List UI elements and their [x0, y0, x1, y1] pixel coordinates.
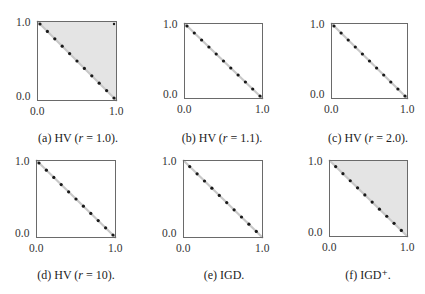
solution-point [340, 31, 343, 34]
solution-point [385, 215, 388, 218]
solution-point [97, 219, 100, 222]
y-tick-bottom: 0.0 [310, 89, 324, 101]
solution-point [67, 190, 70, 193]
x-tick-left: 0.0 [176, 243, 190, 255]
x-tick-left: 0.0 [29, 243, 43, 255]
y-tick-top: 1.0 [163, 19, 177, 31]
solution-point [53, 37, 56, 40]
y-tick-top: 1.0 [310, 19, 324, 31]
caption-e: (e) IGD. [204, 269, 245, 281]
solution-point [45, 169, 48, 172]
solution-point [193, 31, 196, 34]
x-tick-right: 1.0 [400, 242, 414, 254]
solution-point [378, 208, 381, 211]
solution-point [200, 38, 203, 41]
solution-point [341, 172, 344, 175]
x-tick-left: 0.0 [322, 242, 336, 254]
solution-point [332, 24, 335, 27]
caption-f: (f) IGD⁺. [345, 269, 391, 281]
solution-point [112, 96, 115, 99]
x-tick-left: 0.0 [177, 104, 191, 116]
plot-area-b [184, 23, 263, 99]
plot-area-d [36, 160, 116, 238]
y-tick-bottom: 0.0 [162, 228, 176, 240]
solution-point [222, 59, 225, 62]
y-tick-top: 1.0 [308, 156, 322, 168]
x-tick-right: 1.0 [255, 243, 269, 255]
solution-point [244, 80, 247, 83]
solution-point [247, 223, 250, 226]
solution-point [237, 73, 240, 76]
solution-point [61, 45, 64, 48]
solution-point [255, 230, 258, 233]
x-tick-left: 0.0 [30, 106, 44, 118]
solution-point [334, 165, 337, 168]
solution-point [363, 193, 366, 196]
y-tick-top: 1.0 [162, 156, 176, 168]
x-tick-left: 0.0 [324, 104, 338, 116]
solution-point [396, 87, 399, 90]
solution-point [368, 59, 371, 62]
y-tick-top: 1.0 [16, 17, 30, 29]
solution-point [74, 197, 77, 200]
solution-point [89, 212, 92, 215]
solution-point [361, 52, 364, 55]
caption-c: (c) HV (r = 2.0). [328, 132, 408, 144]
x-tick-right: 1.0 [255, 104, 269, 116]
solution-point [215, 52, 218, 55]
x-tick-right: 1.0 [400, 104, 414, 116]
solution-point [258, 94, 261, 97]
solution-point [46, 30, 49, 33]
solution-point [240, 215, 243, 218]
solution-point [349, 179, 352, 182]
plot-area-c [331, 23, 408, 99]
plot-area-a [37, 21, 117, 101]
solution-point [403, 94, 406, 97]
solution-point [38, 22, 41, 25]
solution-point [37, 161, 40, 164]
solution-point [82, 205, 85, 208]
solution-point [400, 229, 403, 232]
y-tick-bottom: 0.0 [16, 91, 30, 103]
solution-point [225, 201, 228, 204]
solution-point [375, 66, 378, 69]
solution-point [52, 176, 55, 179]
solution-point [371, 200, 374, 203]
reference-point [113, 23, 115, 25]
solution-point [210, 187, 213, 190]
y-tick-bottom: 0.0 [308, 227, 322, 239]
solution-point [382, 73, 385, 76]
plot-area-f [329, 160, 408, 237]
solution-point [83, 67, 86, 70]
solution-point [392, 222, 395, 225]
solution-point [354, 45, 357, 48]
solution-point [233, 208, 236, 211]
x-tick-right: 1.0 [108, 243, 122, 255]
solution-point [218, 194, 221, 197]
solution-point [104, 226, 107, 229]
solution-point [389, 80, 392, 83]
caption-d: (d) HV (r = 10). [37, 269, 115, 281]
solution-point [207, 45, 210, 48]
solution-point [75, 59, 78, 62]
caption-a: (a) HV (r = 1.0). [38, 132, 118, 144]
solution-point [98, 82, 101, 85]
y-tick-bottom: 0.0 [15, 228, 29, 240]
solution-point [188, 165, 191, 168]
solution-point [68, 52, 71, 55]
plot-area-e [183, 160, 263, 238]
solution-point [356, 186, 359, 189]
x-tick-right: 1.0 [109, 106, 123, 118]
y-tick-top: 1.0 [15, 156, 29, 168]
solution-point [90, 74, 93, 77]
solution-point [105, 89, 108, 92]
y-tick-bottom: 0.0 [163, 89, 177, 101]
solution-point [251, 87, 254, 90]
solution-point [185, 24, 188, 27]
caption-b: (b) HV (r = 1.1). [182, 132, 263, 144]
solution-point [347, 38, 350, 41]
solution-point [60, 183, 63, 186]
solution-point [111, 233, 114, 236]
solution-point [196, 172, 199, 175]
solution-point [229, 66, 232, 69]
